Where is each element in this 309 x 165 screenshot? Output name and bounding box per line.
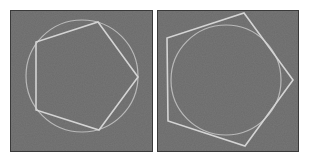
panel-background-left [11,11,152,151]
geometry-figure [0,0,309,165]
panel-background-right [158,11,298,151]
